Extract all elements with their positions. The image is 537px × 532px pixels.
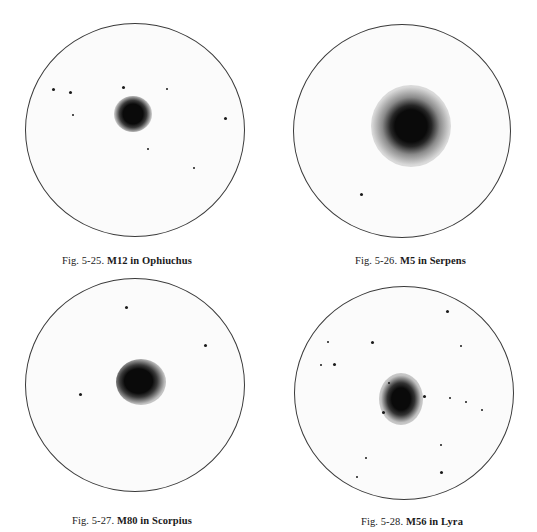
star [365, 457, 367, 459]
star [204, 344, 207, 347]
caption-prefix: Fig. 5-26. [355, 255, 397, 266]
globular-cluster-m80 [116, 359, 166, 405]
figure-caption: Fig. 5-26. M5 in Serpens [355, 255, 466, 266]
star [122, 86, 125, 89]
star [356, 476, 358, 478]
star [388, 382, 390, 384]
globular-cluster-m5 [371, 85, 451, 167]
star [481, 409, 483, 411]
star [423, 395, 426, 398]
star [125, 306, 128, 309]
star [382, 411, 385, 414]
globular-cluster-m56 [379, 373, 423, 425]
eyepiece-field-m12 [25, 23, 245, 237]
figure-caption: Fig. 5-28. M56 in Lyra [361, 516, 463, 527]
globular-cluster-m12 [114, 96, 152, 132]
star [72, 114, 74, 116]
figure-caption: Fig. 5-25. M12 in Ophiuchus [62, 255, 192, 266]
caption-prefix: Fig. 5-28. [361, 516, 403, 527]
star [166, 88, 168, 90]
star [79, 393, 82, 396]
star [440, 471, 443, 474]
star [465, 401, 467, 403]
star [193, 167, 195, 169]
star [460, 345, 462, 347]
eyepiece-field-m56 [294, 286, 514, 500]
caption-prefix: Fig. 5-27. [72, 515, 114, 526]
eyepiece-field-m80 [25, 278, 245, 492]
star [224, 117, 227, 120]
star [327, 341, 329, 343]
star [440, 444, 442, 446]
star [333, 363, 336, 366]
caption-title: M5 in Serpens [400, 255, 466, 266]
star [320, 364, 322, 366]
figure-caption: Fig. 5-27. M80 in Scorpius [72, 515, 192, 526]
star [69, 91, 72, 94]
caption-prefix: Fig. 5-25. [62, 255, 104, 266]
caption-title: M80 in Scorpius [117, 515, 192, 526]
caption-title: M12 in Ophiuchus [107, 255, 192, 266]
star [371, 341, 374, 344]
star [449, 397, 451, 399]
caption-title: M56 in Lyra [406, 516, 463, 527]
star [52, 88, 55, 91]
star [360, 193, 363, 196]
star [446, 310, 449, 313]
eyepiece-field-m5 [293, 24, 511, 238]
star [147, 148, 149, 150]
